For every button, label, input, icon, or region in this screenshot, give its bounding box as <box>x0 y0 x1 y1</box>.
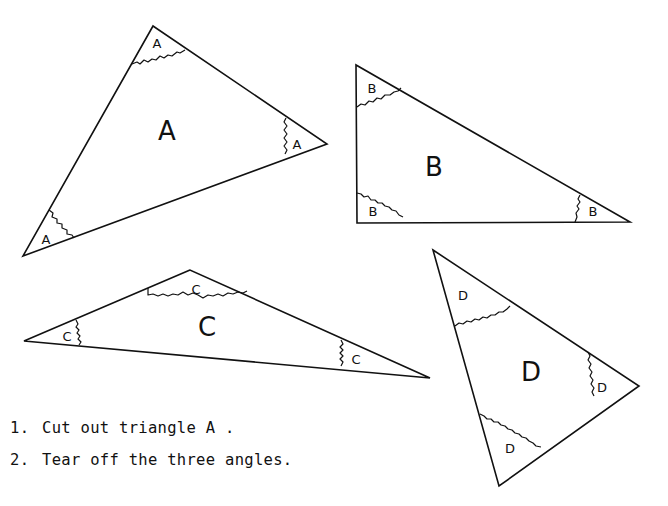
triangle-b-outline <box>356 65 630 223</box>
instruction-text: Tear off the three angles. <box>42 451 292 469</box>
triangle-b: B B B B <box>356 65 630 223</box>
instruction-number: 2. <box>10 450 42 470</box>
triangle-b-label: B <box>425 152 443 182</box>
triangle-d-label: D <box>521 357 541 387</box>
triangle-c-angle-label-1: C <box>191 282 200 297</box>
instruction-text: Cut out triangle A . <box>42 419 235 437</box>
instruction-list: 1.Cut out triangle A . 2.Tear off the th… <box>10 418 292 482</box>
triangle-b-angle-label-2: B <box>369 204 378 219</box>
triangle-d: D D D D <box>433 250 639 486</box>
triangle-c-angle-label-3: C <box>351 352 360 367</box>
instruction-step-2: 2.Tear off the three angles. <box>10 450 292 470</box>
triangle-d-angle-label-3: D <box>505 441 515 456</box>
triangle-b-angle-label-3: B <box>589 204 598 219</box>
triangle-a: A A A A <box>23 26 327 256</box>
triangle-c-angle-label-2: C <box>62 329 71 344</box>
triangle-d-angle-label-1: D <box>458 288 468 303</box>
triangle-d-angle-label-2: D <box>597 380 607 395</box>
triangle-c: C C C C <box>24 270 430 378</box>
triangle-a-angle-label-2: A <box>293 137 302 152</box>
triangle-b-angle-label-1: B <box>368 81 377 96</box>
triangle-c-outline <box>24 270 430 378</box>
instruction-step-1: 1.Cut out triangle A . <box>10 418 292 438</box>
triangle-a-angle-label-3: A <box>42 232 51 247</box>
triangle-a-label: A <box>158 116 176 146</box>
triangle-a-angle-label-1: A <box>153 36 162 51</box>
instruction-number: 1. <box>10 418 42 438</box>
triangle-c-label: C <box>198 312 216 342</box>
